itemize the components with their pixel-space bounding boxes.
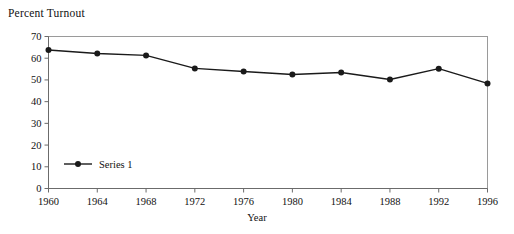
- y-tick-label: 60: [31, 53, 42, 64]
- x-tick-label: 1980: [282, 196, 303, 207]
- y-tick-label: 50: [31, 74, 42, 85]
- x-tick-label: 1988: [379, 196, 400, 207]
- y-tick-label: 20: [31, 140, 42, 151]
- data-point-marker: [192, 65, 198, 71]
- data-point-marker: [94, 50, 100, 56]
- data-point-marker: [143, 52, 149, 58]
- x-tick-label: 1976: [233, 196, 254, 207]
- y-tick-label: 40: [31, 96, 42, 107]
- data-point-marker: [436, 66, 442, 72]
- x-tick-label: 1968: [136, 196, 157, 207]
- plot-area: 010203040506070 196019641968197219761980…: [0, 0, 514, 234]
- x-tick-label: 1972: [184, 196, 205, 207]
- data-point-marker: [387, 76, 393, 82]
- y-tick-label: 0: [36, 183, 41, 194]
- y-tick-label: 70: [31, 31, 42, 42]
- legend-entry-label: Series 1: [99, 159, 133, 170]
- data-point-marker: [241, 68, 247, 74]
- data-point-marker: [338, 70, 344, 76]
- data-point-marker: [289, 72, 295, 78]
- legend: Series 1: [64, 159, 133, 170]
- data-point-marker: [485, 80, 491, 86]
- x-tick-label: 1984: [331, 196, 353, 207]
- data-point-marker: [46, 47, 52, 53]
- x-tick-label: 1992: [428, 196, 449, 207]
- series-markers: [46, 47, 491, 86]
- x-tick-label: 1960: [38, 196, 59, 207]
- x-axis-ticks: 1960196419681972197619801984198819921996: [38, 189, 498, 207]
- legend-marker-icon: [75, 161, 81, 167]
- x-tick-label: 1964: [87, 196, 109, 207]
- chart-container: Percent Turnout Year 010203040506070 196…: [0, 0, 514, 234]
- y-tick-label: 10: [31, 161, 42, 172]
- x-tick-label: 1996: [477, 196, 498, 207]
- y-tick-label: 30: [31, 118, 42, 129]
- series-line-series-1: [49, 50, 488, 83]
- y-axis-ticks: 010203040506070: [31, 31, 49, 194]
